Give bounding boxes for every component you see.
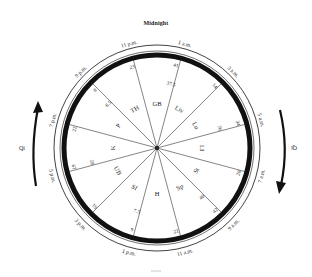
meridian-spoke: [157, 148, 221, 212]
acupoint-number-outer: 8: [92, 87, 98, 93]
acupoint-number-outer: 42: [211, 206, 219, 214]
hour-label: 7 a.m.: [257, 168, 267, 183]
meridian-spoke: [157, 148, 181, 236]
organ-label-li: LI: [199, 145, 206, 151]
organ-label-st: St: [192, 166, 201, 174]
hour-label: 9 p.m.: [74, 64, 89, 79]
organ-label-p: P: [114, 122, 122, 129]
organ-label-liv: Liv: [174, 104, 186, 115]
acupoint-number-outer: 9: [130, 226, 134, 233]
acupoint-number-outer: 19: [91, 202, 99, 210]
hour-label: 3 a.m.: [226, 65, 240, 79]
meridian-spokes: [69, 60, 245, 236]
acupoint-number-inner: 7.5: [133, 207, 141, 215]
hour-label: 1 p.m.: [121, 248, 137, 258]
meridian-spoke: [93, 84, 157, 148]
qi-label-left: Qi: [19, 145, 25, 151]
hour-label: 1 a.m.: [177, 39, 192, 49]
organ-label-ub: UB: [113, 165, 124, 177]
acupoint-number-outer: 14: [211, 82, 219, 90]
qi-arrow-left: [33, 108, 38, 186]
acupoint-number-inner: 40: [198, 193, 206, 201]
meridian-spoke: [133, 148, 157, 236]
meridian-spoke: [157, 148, 245, 172]
organ-label-sp: Sp: [175, 182, 184, 191]
acupoint-number-inner: 6.5: [104, 99, 113, 108]
acupoint-number-inner: 37.5: [166, 79, 177, 87]
qi-label-right: Qi: [291, 145, 297, 151]
organ-label-th: TH: [129, 104, 140, 115]
hour-label: 7 p.m.: [48, 112, 58, 128]
meridian-spoke: [93, 148, 157, 212]
arrowhead-up-icon: [33, 101, 43, 113]
meridian-spoke: [69, 124, 157, 148]
meridian-spoke: [157, 84, 221, 148]
hour-label: 5 p.m.: [48, 168, 58, 184]
organ-label-lu: Lu: [191, 121, 201, 131]
organ-label-k: K: [109, 145, 116, 150]
hour-label: 9 a.m.: [226, 217, 240, 231]
organ-clock-diagram: Midnight 4137.51434762042402197.51967582…: [0, 0, 312, 277]
qi-arrow-right: [280, 110, 285, 185]
hour-label: 3 p.m.: [74, 217, 89, 232]
organ-label-si: SI: [130, 182, 139, 191]
organ-label-gb: GB: [152, 100, 162, 107]
diagram-caption: noon: [0, 268, 312, 273]
organ-label-h: H: [155, 190, 160, 197]
arrowhead-down-icon: [276, 181, 286, 194]
hour-label: 5 a.m.: [257, 113, 267, 128]
organ-clock: 4137.51434762042402197.51967582286.523 G…: [0, 0, 312, 277]
